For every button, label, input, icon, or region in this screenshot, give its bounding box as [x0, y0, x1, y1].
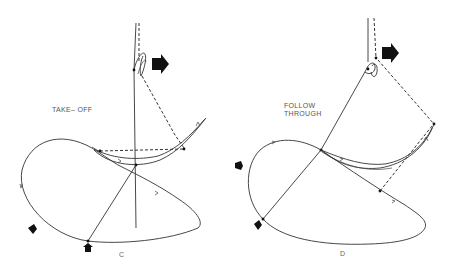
force-arrow-c-left	[28, 224, 37, 234]
joint-dot-d-top	[375, 57, 378, 60]
joint-dot-d-bottom	[262, 218, 265, 221]
panel-d	[235, 18, 435, 244]
joint-dot-c-top	[133, 69, 136, 72]
flow-tick-c-blade	[196, 122, 200, 126]
flow-tick-c-right	[155, 191, 158, 195]
joint-dot-c-bottom	[87, 240, 90, 243]
trajectory-loop-c	[21, 139, 200, 242]
caption-follow-line-1: FOLLOW	[284, 102, 322, 110]
joint-dot-d-left	[367, 68, 370, 71]
force-arrow-c-bottom	[83, 243, 93, 252]
diagram-figure: TAKE– OFF FOLLOW THROUGH C D	[0, 0, 455, 270]
caption-take-off-text: TAKE– OFF	[52, 106, 92, 113]
caption-follow-through: FOLLOW THROUGH	[284, 102, 322, 118]
direction-arrow-c	[152, 54, 169, 74]
joint-dot-c-right	[183, 148, 186, 151]
direction-arrow-d	[382, 43, 399, 63]
caption-take-off: TAKE– OFF	[52, 106, 92, 114]
vertical-line-c	[134, 23, 136, 228]
foot-loop-c	[134, 53, 146, 76]
panel-letter-d: D	[340, 250, 345, 257]
dashed-vertical-d	[374, 18, 376, 58]
strut-line-d	[263, 150, 321, 219]
diagram-canvas	[0, 0, 455, 270]
force-arrow-d-left	[235, 161, 243, 170]
dashed-lower-d	[380, 126, 432, 191]
flow-tick-d-lower	[392, 200, 395, 203]
flow-tick-c-left	[20, 184, 22, 188]
panel-letter-c: C	[119, 251, 124, 258]
flow-tick-c-upper	[118, 159, 121, 163]
dashed-diagonal-d	[378, 60, 434, 124]
leg-line-d	[321, 70, 366, 150]
panel-c	[20, 23, 206, 252]
strut-line-c	[88, 165, 136, 241]
caption-follow-line-2: THROUGH	[284, 110, 322, 118]
force-arrow-d-lower	[254, 220, 262, 230]
dashed-diagonal-c	[142, 76, 184, 148]
joint-dot-c-left	[99, 150, 102, 153]
